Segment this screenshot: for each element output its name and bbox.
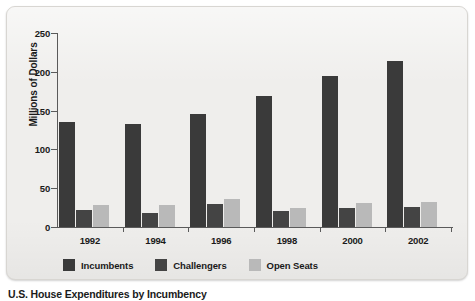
x-axis-tick [451, 227, 452, 232]
bar [256, 96, 272, 227]
x-axis-tick [123, 227, 124, 232]
figure-panel: Millions of Dollars 050100150200250 1992… [6, 6, 468, 280]
bar [76, 210, 92, 227]
bar [387, 61, 403, 227]
legend-swatch-icon [249, 259, 261, 271]
y-axis-tick-label: 150 [10, 105, 50, 116]
bar [421, 202, 437, 227]
x-axis-tick [254, 227, 255, 232]
bar-group [322, 33, 372, 227]
bar-group [387, 33, 437, 227]
y-axis-tick-label: 200 [10, 66, 50, 77]
y-axis-tick-label: 0 [10, 222, 50, 233]
legend-label: Incumbents [81, 260, 133, 271]
bar [273, 211, 289, 227]
legend-swatch-icon [155, 259, 167, 271]
bar [404, 207, 420, 227]
legend-label: Challengers [173, 260, 226, 271]
bar [322, 76, 338, 227]
legend-item: Incumbents [63, 259, 133, 271]
chart-legend: IncumbentsChallengersOpen Seats [63, 259, 318, 271]
bar [224, 199, 240, 227]
bar [59, 122, 75, 227]
bar [290, 208, 306, 227]
bar-group [125, 33, 175, 227]
legend-label: Open Seats [267, 260, 318, 271]
bar [159, 205, 175, 227]
plot-area [57, 33, 451, 227]
y-axis-tick-label: 50 [10, 183, 50, 194]
bar [207, 204, 223, 227]
x-axis-tick [385, 227, 386, 232]
bar-group [190, 33, 240, 227]
bar [190, 114, 206, 227]
x-axis-tick [320, 227, 321, 232]
bar-group [256, 33, 306, 227]
figure-caption: U.S. House Expenditures by Incumbency [8, 288, 468, 300]
bar-group [59, 33, 109, 227]
bar [339, 208, 355, 227]
y-axis-tick-label: 100 [10, 144, 50, 155]
y-axis-tick-labels: 050100150200250 [7, 7, 50, 280]
bar [142, 213, 158, 227]
bar [93, 205, 109, 227]
bar [356, 203, 372, 227]
x-axis-label: 2002 [378, 235, 458, 246]
legend-item: Challengers [155, 259, 226, 271]
legend-item: Open Seats [249, 259, 318, 271]
bar [125, 124, 141, 227]
legend-swatch-icon [63, 259, 75, 271]
x-axis-tick [188, 227, 189, 232]
x-axis-line [57, 227, 453, 228]
y-axis-tick-label: 250 [10, 28, 50, 39]
